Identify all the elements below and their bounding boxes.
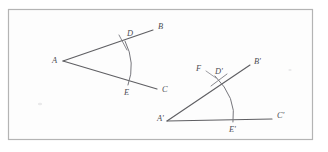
label-B: B [158,22,163,31]
label-D: D [126,29,133,38]
label-C: C [162,85,168,94]
label-B-prime: B' [254,57,261,66]
paper-smudge-left [38,103,42,105]
label-C-prime: C' [277,111,285,120]
label-D-prime: D' [214,67,223,76]
label-E: E [123,88,129,97]
label-A-prime: A' [156,114,164,123]
figure-canvas: A B C D E A' B' C' D' E' F [0,0,328,152]
label-F: F [195,64,202,73]
angle-construction-figure: A B C D E A' B' C' D' E' F [0,0,328,152]
label-E-prime: E' [228,125,236,134]
label-A: A [51,56,58,65]
paper-smudge-right [288,69,291,71]
